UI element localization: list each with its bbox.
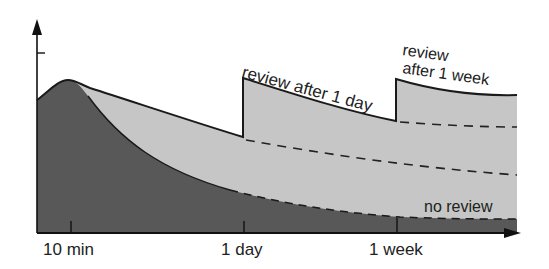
tick-label-1week: 1 week	[369, 240, 423, 259]
tick-label-10min: 10 min	[43, 240, 94, 259]
annotation-no-review: no review	[424, 198, 493, 215]
y-axis-arrow-icon	[32, 19, 42, 35]
tick-label-1day: 1 day	[221, 240, 263, 259]
forgetting-curve-diagram: 10 min 1 day 1 week review after 1 day r…	[0, 0, 549, 269]
